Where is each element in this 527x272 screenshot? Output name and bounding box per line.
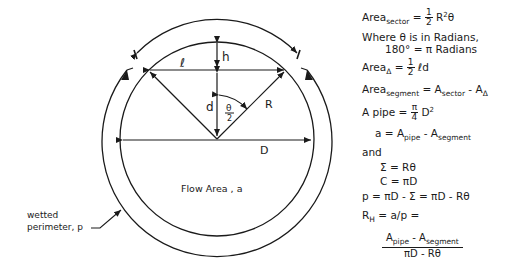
label-wetted: wetted <box>27 210 58 220</box>
eq-area-segment: Areasegment = Asector - AΔ <box>362 84 488 98</box>
top-arc-tick-right <box>297 50 300 59</box>
eq-and: and <box>362 147 382 158</box>
eq-circumference: C = πD <box>380 176 417 187</box>
eq-p-def: p = πD - Σ = πD - Rθ <box>362 191 470 202</box>
label-perimeter-p: perimeter, p <box>27 222 83 232</box>
wetted-arc-arrow-left <box>121 70 129 80</box>
label-D: D <box>260 144 268 157</box>
eq-theta-note-1: Where θ is in Radians, <box>362 32 479 43</box>
label-theta-half-den: 2 <box>227 114 232 123</box>
eq-a-pipe: A pipe = π4 D2 <box>362 103 434 123</box>
label-flow-area: Flow Area , a <box>181 183 242 194</box>
label-l: ℓ <box>179 56 185 70</box>
eq-a-def: a = Apipe - Asegment <box>375 128 471 142</box>
eq-hydraulic-radius-fraction: Apipe - Asegment πD - Rθ <box>382 233 463 259</box>
wetted-arc-arrow-right <box>305 70 313 80</box>
eq-hydraulic-radius: RH = a/p = <box>362 210 419 224</box>
top-arc-tick-left <box>134 50 137 59</box>
label-theta-half-num: θ <box>226 103 232 113</box>
label-h: h <box>222 50 230 64</box>
eq-area-sector: Areasector = 12 R2θ <box>362 8 454 28</box>
angle-theta-half-arc <box>219 95 247 109</box>
label-R: R <box>265 98 273 111</box>
eq-theta-note-2: 180° = π Radians <box>385 44 477 55</box>
eq-sigma: Σ = Rθ <box>380 162 416 173</box>
wetted-perimeter-leader <box>91 210 121 228</box>
eq-area-triangle: AreaΔ = 12 ℓd <box>362 58 429 78</box>
label-d: d <box>206 100 214 114</box>
